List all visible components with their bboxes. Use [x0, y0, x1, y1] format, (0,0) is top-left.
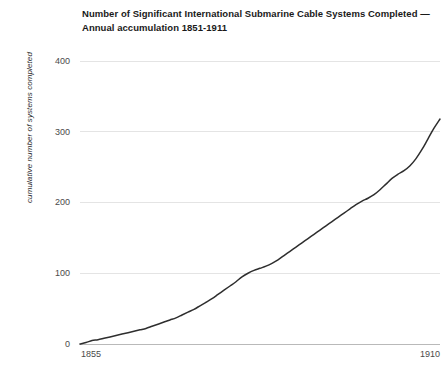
series-line-cumulative-systems [80, 119, 440, 344]
series-line-chart [80, 61, 440, 344]
y-axis-title: cumulative number of systems completed [25, 52, 34, 203]
x-tick-label-1910: 1910 [395, 350, 440, 359]
y-tick-label-300: 300 [36, 128, 70, 137]
chart-title-line-1: Number of Significant International Subm… [82, 7, 430, 21]
plot-area [80, 61, 440, 344]
y-tick-label-200: 200 [36, 198, 70, 207]
y-tick-label-400: 400 [36, 57, 70, 66]
chart-title-line-2: Annual accumulation 1851-1911 [82, 21, 430, 35]
chart-title: Number of Significant International Subm… [82, 7, 430, 35]
y-tick-label-0: 0 [36, 340, 70, 349]
x-tick-label-1855: 1855 [81, 350, 101, 359]
y-tick-label-100: 100 [36, 269, 70, 278]
chart-root: Number of Significant International Subm… [0, 0, 444, 388]
gridline-0-baseline [80, 344, 440, 345]
